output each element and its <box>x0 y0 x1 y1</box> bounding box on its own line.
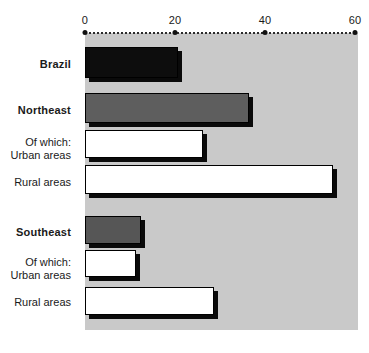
bar-southeast-rural <box>85 287 214 315</box>
x-tick-label-40: 40 <box>259 14 272 26</box>
category-label-northeast-rural: Rural areas <box>0 176 78 189</box>
category-label-northeast-urban: Of which: Urban areas <box>0 136 78 162</box>
x-tick-dot-60 <box>353 30 358 35</box>
bar-northeast <box>85 93 249 123</box>
category-label-southeast: Southeast <box>0 226 78 239</box>
bar-northeast-rural <box>85 165 333 194</box>
x-tick-dot-20 <box>173 30 178 35</box>
category-label-northeast: Northeast <box>0 104 78 117</box>
bar-southeast-urban <box>85 250 136 277</box>
x-axis-line <box>85 32 356 34</box>
bar-brazil <box>85 47 178 78</box>
x-tick-label-0: 0 <box>82 14 88 26</box>
bar-chart: 0 20 40 60 Brazil Northeast Of which: Ur… <box>0 0 369 353</box>
x-tick-label-60: 60 <box>349 14 362 26</box>
x-tick-dot-40 <box>263 30 268 35</box>
category-label-southeast-rural: Rural areas <box>0 296 78 309</box>
category-label-brazil: Brazil <box>0 58 78 71</box>
x-tick-dot-0 <box>83 30 88 35</box>
bar-northeast-urban <box>85 130 203 158</box>
category-label-southeast-urban: Of which: Urban areas <box>0 256 78 282</box>
x-tick-label-20: 20 <box>169 14 182 26</box>
bar-southeast <box>85 216 141 244</box>
